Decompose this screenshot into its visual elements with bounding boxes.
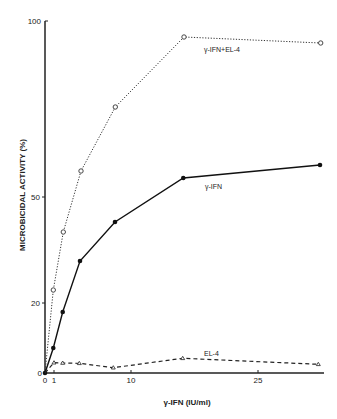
filled-circle-marker (78, 259, 83, 264)
x-tick-label: 1 (52, 376, 57, 385)
x-tick-label: 10 (127, 376, 136, 385)
filled-circle-marker (318, 163, 323, 168)
x-axis-title: γ-IFN (IU/ml) (163, 398, 210, 407)
filled-circle-marker (60, 310, 65, 315)
open-circle-marker (79, 169, 83, 173)
open-circle-marker (61, 230, 65, 234)
chart: 100 50 20 0 0 1 10 25 MICROBICIDAL ACTIV… (0, 0, 337, 419)
triangle-marker (181, 356, 185, 359)
series-label-el4: EL-4 (204, 350, 219, 357)
series-el4: EL-4 (45, 350, 320, 373)
filled-circle-marker (181, 176, 186, 181)
x-tick-label: 0 (43, 376, 48, 385)
triangle-marker (316, 362, 320, 365)
series-label-ifn: γ-IFN (205, 183, 222, 191)
filled-circle-marker (113, 220, 118, 225)
triangle-marker (77, 361, 81, 364)
series-ifn: γ-IFN (43, 163, 323, 376)
triangle-marker (61, 361, 65, 364)
y-axis-title: MICROBICIDAL ACTIVITY (%) (18, 139, 27, 251)
y-tick-label: 100 (28, 17, 42, 26)
triangle-marker (111, 366, 115, 369)
y-tick-label: 20 (31, 299, 40, 308)
open-circle-marker (51, 288, 55, 292)
open-circle-marker (182, 35, 186, 39)
open-circle-marker (113, 105, 117, 109)
x-tick-label: 25 (254, 376, 263, 385)
series-label-ifn-el4: γ-IFN+EL-4 (204, 46, 240, 54)
open-circle-marker (319, 41, 323, 45)
triangle-marker (52, 361, 56, 364)
y-tick-label: 50 (31, 193, 40, 202)
series-ifn-el4: γ-IFN+EL-4 (45, 35, 323, 373)
filled-circle-marker (51, 346, 56, 351)
